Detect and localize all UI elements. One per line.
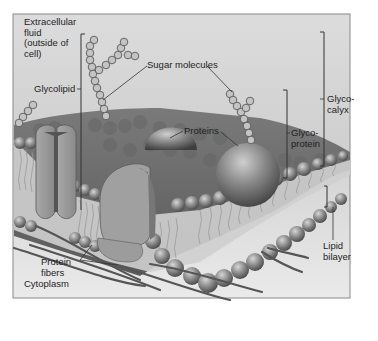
glycoprotein-sphere [216,143,280,207]
channel-protein-left [36,125,76,219]
cell-membrane-diagram: Extracellular fluid (outside of cell) Gl… [0,0,378,341]
label-extracellular-fluid: Extracellular fluid (outside of cell) [24,17,76,59]
label-cytoplasm: Cytoplasm [24,279,69,290]
label-glycocalyx: Glyco- calyx [327,94,354,115]
label-lipid-bilayer: Lipid bilayer [323,241,351,262]
label-protein-fibers: Protein fibers [41,257,71,278]
label-glycolipid: Glycolipid [34,84,75,95]
label-glycoprotein: Glyco- protein [291,128,320,149]
label-proteins: Proteins [184,126,219,137]
label-sugar-molecules: Sugar molecules [147,60,218,71]
